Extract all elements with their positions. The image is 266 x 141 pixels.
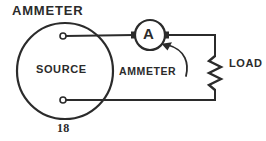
- ammeter-circuit-figure: AMMETER SOURCE A AMMETER LOAD 18: [0, 0, 266, 141]
- load-resistor-zigzag: [209, 56, 221, 90]
- figure-number-label: 18: [57, 122, 70, 134]
- wire-source-to-ammeter: [66, 35, 133, 36]
- load-label: LOAD: [229, 58, 263, 69]
- source-positive-terminal: [60, 33, 66, 39]
- ammeter-symbol-letter: A: [143, 26, 154, 41]
- figure-title: AMMETER: [12, 4, 83, 17]
- ammeter-callout-label: AMMETER: [119, 66, 176, 77]
- source-negative-terminal: [60, 97, 66, 103]
- source-label: SOURCE: [36, 64, 87, 75]
